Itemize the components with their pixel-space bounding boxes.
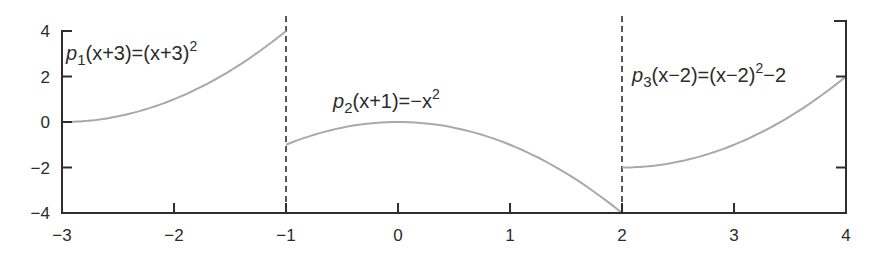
y-tick-label: 0 xyxy=(41,113,50,132)
y-tick-label: 4 xyxy=(41,22,50,41)
x-tick-label: −3 xyxy=(52,226,71,245)
y-tick-label: −2 xyxy=(31,159,50,178)
x-tick-label: 3 xyxy=(729,226,738,245)
x-tick-label: 0 xyxy=(393,226,402,245)
curve-p3 xyxy=(622,77,846,168)
x-tick-label: 4 xyxy=(841,226,850,245)
x-tick-label: 1 xyxy=(505,226,514,245)
piecewise-polynomial-chart: −3−2−101234 420−2−4 p1(x+3)=(x+3)2 p2(x+… xyxy=(0,0,873,253)
x-tick-label: −1 xyxy=(276,226,295,245)
x-axis-ticks: −3−2−101234 xyxy=(52,203,850,245)
annotation-p3: p3(x−2)=(x−2)2−2 xyxy=(631,60,786,90)
breakpoint-dashed-lines xyxy=(286,16,622,213)
curve-p2 xyxy=(286,122,622,213)
annotation-p2: p2(x+1)=−x2 xyxy=(332,86,440,116)
y-tick-label: −4 xyxy=(31,204,50,223)
plot-area: −3−2−101234 420−2−4 p1(x+3)=(x+3)2 p2(x+… xyxy=(0,0,873,253)
annotation-p1: p1(x+3)=(x+3)2 xyxy=(65,38,197,68)
y-tick-label: 2 xyxy=(41,68,50,87)
x-tick-label: −2 xyxy=(164,226,183,245)
x-tick-label: 2 xyxy=(617,226,626,245)
